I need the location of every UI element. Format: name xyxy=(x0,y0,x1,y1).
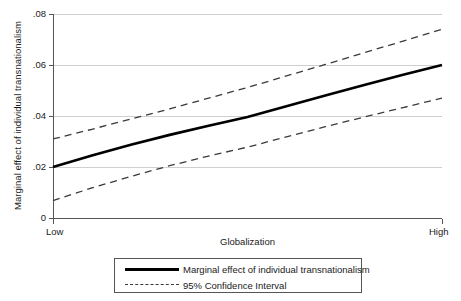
legend-solid-line-swatch xyxy=(121,262,183,276)
legend-label-marginal-effect: Marginal effect of individual transnatio… xyxy=(183,264,370,275)
plot-area xyxy=(0,0,461,301)
legend-dashed-line-swatch xyxy=(121,278,183,292)
legend-label-confidence-interval: 95% Confidence Interval xyxy=(183,280,287,291)
series-line xyxy=(53,29,442,139)
chart-legend: Marginal effect of individual transnatio… xyxy=(114,258,362,293)
marginal-effects-chart: Marginal effect of individual transnatio… xyxy=(0,0,461,301)
legend-item-confidence-interval: 95% Confidence Interval xyxy=(115,277,361,293)
x-axis-title: Globalization xyxy=(53,236,442,247)
legend-item-marginal-effect: Marginal effect of individual transnatio… xyxy=(115,261,361,277)
